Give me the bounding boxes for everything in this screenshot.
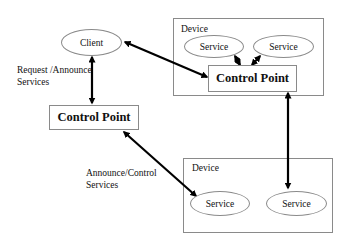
service-label: Service	[282, 199, 311, 209]
client-node: Client	[61, 29, 122, 56]
left-control-point: Control Point	[49, 105, 139, 130]
top-service-2: Service	[253, 35, 314, 58]
device-control-point-label: Control Point	[216, 71, 289, 86]
top-service-1: Service	[184, 35, 244, 58]
service-label: Service	[206, 199, 235, 209]
edge-label-line1: Request /Announce	[17, 64, 92, 76]
client-label: Client	[80, 38, 103, 48]
upnp-architecture-diagram: Device Device Client Request /Announce S…	[0, 0, 346, 248]
edge-label-line1: Announce/Control	[86, 167, 157, 179]
service-label: Service	[200, 42, 229, 52]
device-control-point: Control Point	[208, 65, 297, 92]
service-label: Service	[269, 42, 298, 52]
bottom-service-2: Service	[266, 191, 327, 216]
service2-to-control-point-arrow	[252, 56, 260, 65]
service1-to-control-point-arrow	[235, 56, 240, 65]
edge-label-line2: Services	[17, 76, 92, 88]
left-control-point-label: Control Point	[57, 110, 130, 125]
bottom-service-1: Service	[190, 191, 250, 216]
request-announce-label: Request /Announce Services	[17, 64, 92, 88]
edge-label-line2: Services	[86, 179, 157, 191]
announce-control-label: Announce/Control Services	[86, 167, 157, 191]
